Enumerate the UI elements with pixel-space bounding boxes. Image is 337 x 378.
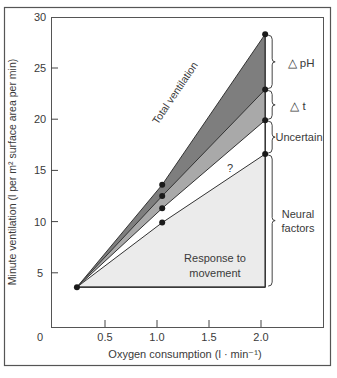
total-ventilation-label: Total ventilation [149,59,200,126]
x-tick-label: 1.5 [201,331,216,343]
y-axis-ticks: 51015202530 [34,11,58,279]
neural-label-2: factors [281,222,315,234]
regions [77,34,265,287]
y-tick-label: 15 [34,164,46,176]
data-point [159,182,165,188]
data-point [262,151,268,157]
data-point [74,284,80,290]
y-tick-label: 5 [37,267,43,279]
y-tick-label: 25 [34,62,46,74]
delta-t-label: △ t [290,100,306,112]
brace-4 [268,155,275,286]
y-tick-label: 30 [34,11,46,23]
neural-label-1: Neural [282,208,314,220]
y-tick-label: 20 [34,113,46,125]
y-axis-label: Minute ventilation (l per m² surface are… [6,59,18,285]
data-point [262,31,268,37]
brace-3 [268,121,275,153]
x-tick-label: 1.0 [149,331,164,343]
x-tick-label: 2.0 [253,331,268,343]
y-tick-label: 10 [34,216,46,228]
data-point [159,205,165,211]
data-point [262,87,268,93]
origin-label: 0 [37,331,43,343]
response-label-2: movement [189,267,240,279]
x-tick-label: 0.5 [97,331,112,343]
data-point [262,117,268,123]
x-axis-label: Oxygen consumption (l · min⁻¹) [108,348,261,360]
brace-1 [268,35,275,88]
data-point [159,220,165,226]
delta-ph-label: △ pH [288,57,315,69]
question-label: ? [227,162,233,174]
brace-2 [268,91,275,120]
braces [268,35,275,286]
data-point [159,193,165,199]
response-label-1: Response to [184,252,246,264]
x-axis-ticks: 0.51.01.52.0 [97,320,268,343]
ventilation-chart: 51015202530 0.51.01.52.0 0 Oxygen consum… [0,0,337,378]
uncertain-label: Uncertain [275,131,322,143]
